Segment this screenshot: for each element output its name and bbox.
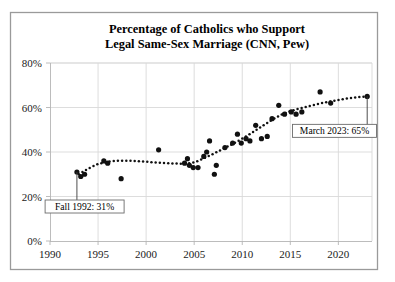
trend-line-dot: [92, 165, 95, 168]
trend-line-dot: [200, 158, 203, 161]
trend-line-dot: [219, 149, 222, 152]
trend-line-dot: [262, 124, 265, 127]
trend-line-dot: [192, 161, 195, 164]
trend-line-dot: [129, 160, 132, 163]
trend-line-dot: [208, 155, 211, 158]
data-point: [195, 165, 200, 170]
trend-line-dot: [321, 102, 324, 105]
data-point: [318, 89, 323, 94]
data-point: [156, 147, 161, 152]
trend-line-dot: [304, 106, 307, 109]
x-tick-label: 1995: [87, 248, 110, 260]
data-point: [299, 109, 304, 114]
x-tick-label: 2020: [327, 248, 350, 260]
trend-line-dot: [117, 159, 120, 162]
trend-line-dot: [309, 105, 312, 108]
data-point: [269, 116, 274, 121]
data-point: [247, 138, 252, 143]
annotation-march-2023-label: March 2023: 65%: [300, 125, 369, 136]
x-tick-label: 2005: [183, 248, 206, 260]
chart-figure: Percentage of Catholics who Support Lega…: [0, 0, 395, 282]
y-tick-label: 80%: [22, 57, 42, 69]
data-point: [239, 141, 244, 146]
trend-line-dot: [241, 137, 244, 140]
trend-line-dot: [346, 97, 349, 100]
x-tick-label: 2000: [135, 248, 158, 260]
trend-line-dot: [313, 104, 316, 107]
trend-line-dot: [215, 151, 218, 154]
trend-line-dot: [248, 133, 251, 136]
trend-line-dot: [146, 161, 149, 164]
data-point: [212, 172, 217, 177]
trend-line-dot: [266, 122, 269, 125]
trend-line-dot: [341, 98, 344, 101]
trend-line-dot: [180, 162, 183, 165]
data-point: [182, 161, 187, 166]
chart-title-line-2: Legal Same-Sex Marriage (CNN, Pew): [105, 37, 309, 51]
trend-line-dot: [171, 162, 174, 165]
y-tick-label: 60%: [22, 102, 42, 114]
trend-line-dot: [252, 131, 255, 134]
annotation-fall-1992-label: Fall 1992: 31%: [55, 201, 114, 212]
trend-line-dot: [333, 99, 336, 102]
trend-line-dot: [296, 108, 299, 111]
data-point: [82, 172, 87, 177]
trend-line-dot: [362, 95, 365, 98]
trend-line-dot: [175, 162, 178, 165]
trend-line-dot: [159, 161, 162, 164]
trend-line-dot: [350, 97, 353, 100]
trend-line-dot: [133, 160, 136, 163]
trend-line-dot: [211, 153, 214, 156]
data-point: [282, 112, 287, 117]
trend-line-dot: [150, 161, 153, 164]
data-point: [230, 141, 235, 146]
data-point: [119, 176, 124, 181]
trend-line-dot: [259, 126, 262, 129]
trend-line-dot: [125, 159, 128, 162]
trend-line-dot: [277, 115, 280, 118]
data-point: [201, 154, 206, 159]
trend-line-dot: [121, 159, 124, 162]
data-point: [105, 161, 110, 166]
trend-line-dot: [88, 167, 91, 170]
trend-line-dot: [138, 160, 141, 163]
trend-line-dot: [85, 169, 88, 172]
data-point: [191, 165, 196, 170]
data-point: [235, 132, 240, 137]
data-point: [276, 103, 281, 108]
trend-line-dot: [163, 162, 166, 165]
data-point: [259, 136, 264, 141]
data-point: [253, 123, 258, 128]
trend-line-dot: [96, 163, 99, 166]
trend-line-dot: [196, 160, 199, 163]
x-tick-label: 2010: [231, 248, 254, 260]
trend-line-dot: [317, 103, 320, 106]
x-tick-label: 1990: [39, 248, 62, 260]
trend-line-dot: [112, 160, 115, 163]
data-point: [185, 156, 190, 161]
trend-line-dot: [300, 107, 303, 110]
trend-line-dot: [354, 96, 357, 99]
trend-line-dot: [255, 129, 258, 132]
y-tick-label: 20%: [22, 191, 42, 203]
data-point: [265, 134, 270, 139]
data-point: [293, 112, 298, 117]
x-tick-label: 2015: [279, 248, 302, 260]
trend-line-dot: [325, 101, 328, 104]
data-point: [328, 100, 333, 105]
data-point: [207, 138, 212, 143]
trend-line-dot: [167, 162, 170, 165]
trend-line-dot: [142, 160, 145, 163]
trend-line-dot: [358, 96, 361, 99]
y-tick-label: 40%: [22, 146, 42, 158]
data-point: [214, 163, 219, 168]
chart-title-line-1: Percentage of Catholics who Support: [109, 22, 306, 36]
data-point: [204, 149, 209, 154]
y-tick-label: 0%: [27, 235, 42, 247]
data-point: [289, 109, 294, 114]
trend-line-dot: [337, 99, 340, 102]
data-point: [222, 145, 227, 150]
trend-line-dot: [154, 161, 157, 164]
